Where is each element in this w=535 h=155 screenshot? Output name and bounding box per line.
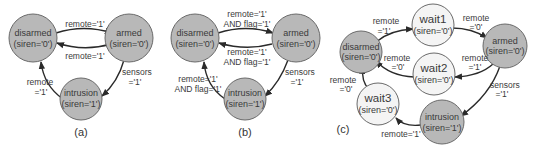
diagram-a: disarmed (siren='0') armed (siren='0') i… xyxy=(9,14,153,138)
edge-c-armed-to-intrusion xyxy=(461,66,500,116)
label-a-disarmed-armed: remote='1' xyxy=(65,19,105,29)
svg-text:(siren='0'): (siren='0') xyxy=(13,39,52,49)
edge-b-disarmed-to-armed xyxy=(218,29,273,34)
svg-text:(siren='1'): (siren='1') xyxy=(422,123,461,133)
state-disarmed: disarmed (siren='0') xyxy=(340,31,382,73)
label-c-disarmed-wait1-1: remote xyxy=(373,16,400,26)
svg-text:wait2: wait2 xyxy=(420,62,448,74)
label-a-sensors: sensors xyxy=(122,67,152,77)
svg-text:wait3: wait3 xyxy=(364,92,392,104)
state-armed: armed (siren='0') xyxy=(483,24,527,68)
label-b-disarmed-armed-1: remote='1' xyxy=(227,9,267,19)
label-c-intrusion-wait3: remote='1' xyxy=(381,129,421,139)
svg-text:(siren='1'): (siren='1') xyxy=(61,99,100,109)
label-c-disarmed-wait1-2: ='1' xyxy=(378,26,391,36)
label-c-wait3-disarmed-2: ='0' xyxy=(340,84,353,94)
svg-text:intrusion: intrusion xyxy=(425,112,459,122)
label-c-armed-wait2-2: ='1' xyxy=(469,62,482,72)
svg-text:(siren='0'): (siren='0') xyxy=(341,52,380,62)
svg-text:(siren='0'): (siren='0') xyxy=(276,39,315,49)
edge-disarmed-to-armed xyxy=(56,29,112,34)
label-a-armed-disarmed: remote='1' xyxy=(65,51,105,61)
svg-text:armed: armed xyxy=(283,28,309,38)
label-a-remote: remote xyxy=(27,77,54,87)
svg-text:(siren='1'): (siren='1') xyxy=(225,99,264,109)
label-b-sensors-val: ='1' xyxy=(291,77,304,87)
svg-text:wait1: wait1 xyxy=(419,13,447,25)
svg-text:(siren='0'): (siren='0') xyxy=(413,26,452,36)
caption-c: (c) xyxy=(337,123,350,135)
state-disarmed: disarmed (siren='0') xyxy=(9,14,57,62)
svg-text:disarmed: disarmed xyxy=(14,28,51,38)
label-b-sensors: sensors xyxy=(285,67,315,77)
diagram-c: disarmed (siren='0') wait1 (siren='0') a… xyxy=(330,4,527,144)
state-armed: armed (siren='0') xyxy=(272,14,320,62)
label-b-armed-disarmed-2: AND flag='1' xyxy=(224,57,271,67)
state-wait1: wait1 (siren='0') xyxy=(412,4,454,46)
state-intrusion: intrusion (siren='1') xyxy=(420,100,464,144)
svg-text:armed: armed xyxy=(492,36,518,46)
state-disarmed: disarmed (siren='0') xyxy=(171,14,219,62)
label-c-sensors-val: ='1' xyxy=(496,89,509,99)
label-b-intrusion-disarmed-2: AND flag='1' xyxy=(175,84,222,94)
svg-text:(siren='0'): (siren='0') xyxy=(109,39,148,49)
svg-text:disarmed: disarmed xyxy=(176,28,213,38)
label-a-remote-val: ='1' xyxy=(35,87,48,97)
edge-armed-to-intrusion xyxy=(102,60,124,96)
svg-text:(siren='0'): (siren='0') xyxy=(414,75,453,85)
label-c-wait2-disarmed-2: ='0' xyxy=(392,62,405,72)
state-machine-figure: disarmed (siren='0') armed (siren='0') i… xyxy=(0,0,535,155)
state-wait2: wait2 (siren='0') xyxy=(413,53,455,95)
caption-a: (a) xyxy=(74,126,87,138)
state-intrusion: intrusion (siren='1') xyxy=(224,78,266,120)
svg-text:intrusion: intrusion xyxy=(64,88,98,98)
state-wait3: wait3 (siren='0') xyxy=(357,83,399,125)
label-b-armed-disarmed-1: remote='1' xyxy=(227,47,267,57)
label-c-wait1-armed-2: ='0' xyxy=(470,22,483,32)
state-armed: armed (siren='0') xyxy=(105,14,153,62)
state-intrusion: intrusion (siren='1') xyxy=(60,78,102,120)
svg-text:(siren='0'): (siren='0') xyxy=(358,105,397,115)
label-b-disarmed-armed-2: AND flag='1' xyxy=(224,19,271,29)
svg-text:disarmed: disarmed xyxy=(342,42,379,52)
edge-armed-to-disarmed xyxy=(57,43,111,48)
diagram-b: disarmed (siren='0') armed (siren='0') i… xyxy=(171,9,320,138)
label-b-intrusion-disarmed-1: remote='1' xyxy=(178,74,218,84)
svg-text:(siren='0'): (siren='0') xyxy=(175,39,214,49)
caption-b: (b) xyxy=(238,126,251,138)
svg-text:intrusion: intrusion xyxy=(228,88,262,98)
edge-c-intrusion-to-wait3 xyxy=(396,118,421,125)
label-a-sensors-val: ='1' xyxy=(129,77,142,87)
svg-text:(siren='0'): (siren='0') xyxy=(485,46,524,56)
svg-text:armed: armed xyxy=(116,28,142,38)
